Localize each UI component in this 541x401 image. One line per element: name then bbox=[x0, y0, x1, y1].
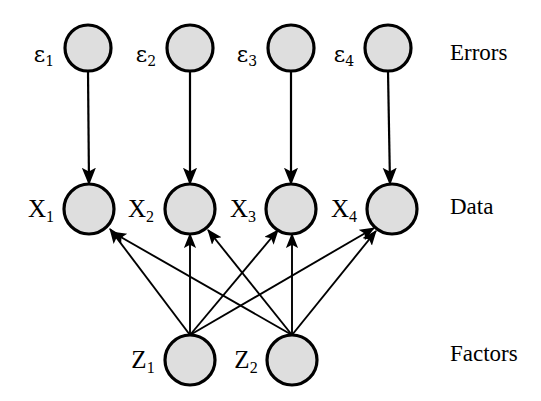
factor-analysis-diagram: ε1 ε2 ε3 ε4 X1 X2 X3 bbox=[0, 0, 541, 401]
edge-z1-to-x1 bbox=[110, 229, 190, 335]
row-label-data: Data bbox=[450, 194, 493, 219]
node-label-eps4: ε4 bbox=[334, 42, 354, 69]
edge-group-error-to-data bbox=[88, 71, 390, 184]
node-group-data: X1 X2 X3 X4 bbox=[28, 184, 417, 234]
node-label-eps3-sub: 3 bbox=[248, 53, 257, 69]
node-circle-eps1[interactable] bbox=[65, 25, 111, 71]
node-label-z2: Z2 bbox=[234, 346, 257, 376]
node-label-x1-base: X bbox=[28, 195, 46, 222]
node-group-factors: Z1 Z2 bbox=[131, 335, 317, 385]
node-label-x3-sub: 3 bbox=[248, 208, 256, 225]
edge-group-factor-to-data bbox=[110, 228, 376, 335]
row-label-group: Errors Data Factors bbox=[450, 40, 518, 366]
row-label-errors: Errors bbox=[450, 40, 508, 65]
node-label-z1-sub: 1 bbox=[147, 359, 155, 376]
node-label-x1: X1 bbox=[28, 195, 54, 225]
node-label-x4-base: X bbox=[331, 195, 349, 222]
edge-z2-to-x4 bbox=[292, 231, 376, 335]
node-group-errors: ε1 ε2 ε3 ε4 bbox=[34, 25, 411, 71]
node-circle-x1[interactable] bbox=[64, 184, 114, 234]
node-label-x3: X3 bbox=[230, 195, 256, 225]
node-label-x2-base: X bbox=[128, 195, 146, 222]
node-circle-z1[interactable] bbox=[165, 335, 215, 385]
node-label-x2: X2 bbox=[128, 195, 154, 225]
node-label-z2-base: Z bbox=[234, 346, 249, 373]
node-label-x1-sub: 1 bbox=[46, 208, 54, 225]
node-label-z1-base: Z bbox=[131, 346, 146, 373]
node-label-x4: X4 bbox=[331, 195, 357, 225]
node-circle-eps3[interactable] bbox=[268, 25, 314, 71]
node-label-eps4-sub: 4 bbox=[345, 53, 354, 69]
node-circle-x4[interactable] bbox=[367, 184, 417, 234]
node-label-x4-sub: 4 bbox=[349, 208, 357, 225]
node-circle-x3[interactable] bbox=[266, 184, 316, 234]
node-label-eps3: ε3 bbox=[237, 42, 257, 69]
node-label-eps4-base: ε bbox=[334, 42, 345, 67]
node-label-eps2-base: ε bbox=[136, 42, 147, 67]
path-diagram-canvas: ε1 ε2 ε3 ε4 X1 X2 X3 bbox=[0, 0, 541, 401]
node-label-z2-sub: 2 bbox=[250, 359, 258, 376]
node-label-eps3-base: ε bbox=[237, 42, 248, 67]
edge-eps1-to-x1 bbox=[88, 71, 89, 184]
node-label-x2-sub: 2 bbox=[146, 208, 154, 225]
row-label-factors: Factors bbox=[450, 341, 518, 366]
node-circle-x2[interactable] bbox=[165, 184, 215, 234]
node-circle-eps2[interactable] bbox=[167, 25, 213, 71]
node-label-eps1-sub: 1 bbox=[45, 53, 54, 69]
edge-z1-to-x4 bbox=[190, 228, 374, 335]
node-circle-z2[interactable] bbox=[267, 335, 317, 385]
node-label-eps1-base: ε bbox=[34, 42, 45, 67]
node-label-eps2: ε2 bbox=[136, 42, 156, 69]
edge-eps4-to-x4 bbox=[388, 71, 390, 184]
node-circle-eps4[interactable] bbox=[365, 25, 411, 71]
node-label-eps2-sub: 2 bbox=[147, 53, 156, 69]
node-label-x3-base: X bbox=[230, 195, 248, 222]
node-label-eps1: ε1 bbox=[34, 42, 54, 69]
node-label-z1: Z1 bbox=[131, 346, 154, 376]
